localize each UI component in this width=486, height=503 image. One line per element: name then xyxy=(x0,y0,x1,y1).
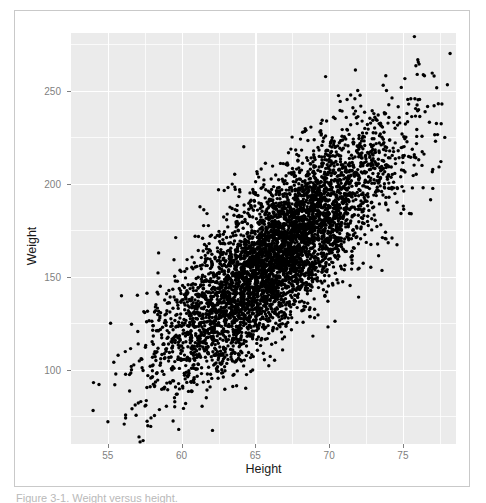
plot-panel xyxy=(71,33,456,444)
y-tick-label: 100 xyxy=(37,364,61,375)
x-tick-mark xyxy=(403,444,404,448)
y-axis-title: Weight xyxy=(25,206,39,286)
scatter-plot: 5560657075 100150200250 Height Weight xyxy=(15,11,471,488)
y-tick-mark xyxy=(67,370,71,371)
x-tick-mark xyxy=(329,444,330,448)
y-tick-mark xyxy=(67,277,71,278)
x-tick-label: 60 xyxy=(176,450,187,461)
data-points-layer xyxy=(71,33,456,444)
x-tick-label: 65 xyxy=(250,450,261,461)
x-tick-mark xyxy=(255,444,256,448)
x-tick-label: 55 xyxy=(102,450,113,461)
y-tick-label: 150 xyxy=(37,271,61,282)
x-tick-label: 75 xyxy=(397,450,408,461)
y-tick-mark xyxy=(67,91,71,92)
scatter-points xyxy=(91,35,451,444)
y-tick-mark xyxy=(67,184,71,185)
x-tick-mark xyxy=(182,444,183,448)
x-tick-label: 70 xyxy=(324,450,335,461)
y-tick-label: 250 xyxy=(37,85,61,96)
x-axis-title: Height xyxy=(71,462,456,476)
y-tick-label: 200 xyxy=(37,178,61,189)
figure-caption: Figure 3-1. Weight versus height. xyxy=(16,492,178,503)
x-tick-mark xyxy=(108,444,109,448)
figure-card: 5560657075 100150200250 Height Weight xyxy=(14,10,470,487)
